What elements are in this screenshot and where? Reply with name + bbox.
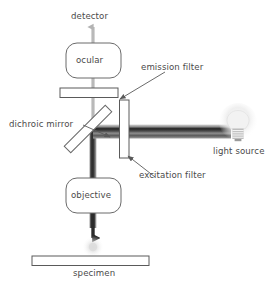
label-emission-filter: emission filter bbox=[141, 63, 203, 72]
light-source-bulb bbox=[219, 103, 257, 141]
focus-glow bbox=[82, 236, 104, 258]
microscope-schematic bbox=[0, 0, 271, 287]
label-excitation-filter: excitation filter bbox=[139, 171, 206, 180]
label-detector: detector bbox=[71, 12, 108, 21]
light-beam bbox=[93, 125, 231, 139]
label-ocular: ocular bbox=[76, 56, 103, 65]
emission-filter-bar bbox=[60, 88, 118, 98]
specimen-slide bbox=[32, 256, 149, 266]
emission-filter-leader bbox=[120, 72, 165, 99]
label-objective: objective bbox=[71, 191, 111, 200]
label-light-source: light source bbox=[213, 147, 265, 156]
excitation-filter-bar bbox=[120, 100, 130, 158]
label-dichroic-mirror: dichroic mirror bbox=[9, 120, 73, 129]
diagram-canvas: detector ocular emission filter dichroic… bbox=[0, 0, 271, 287]
label-specimen: specimen bbox=[73, 269, 115, 278]
